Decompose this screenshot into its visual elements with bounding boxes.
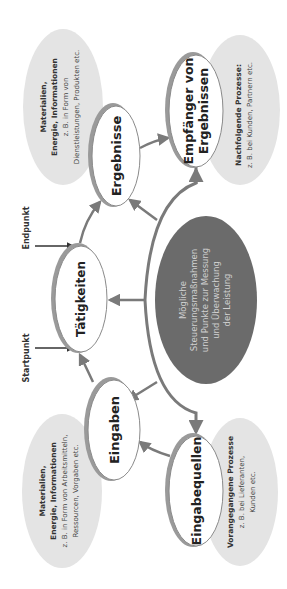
svg-text:Ergebnissen: Ergebnissen [196, 68, 211, 155]
svg-text:Steuerungsmaßnahmen: Steuerungsmaßnahmen [189, 249, 199, 351]
arrow-ergebnisse-to-empfaenger [140, 138, 168, 148]
label-eingaben: Eingaben [107, 396, 122, 464]
svg-text:Ressourcen, Vorgaben etc.: Ressourcen, Vorgaben etc. [72, 444, 80, 537]
label-ergebnisse: Ergebnisse [109, 115, 124, 196]
svg-text:der Leistung: der Leistung [222, 274, 232, 327]
svg-text:z. B. in Form von Arbeitsmitte: z. B. in Form von Arbeitsmitteln, [61, 435, 69, 548]
svg-text:und Überwachung: und Überwachung [211, 261, 221, 339]
svg-text:Kunden etc.: Kunden etc. [249, 471, 257, 513]
svg-text:Mögliche: Mögliche [178, 281, 188, 319]
label-eingabequellen: Eingabequellen [189, 437, 204, 546]
label-endpunkt: Endpunkt [22, 206, 31, 249]
process-diagram: Ergebnisse Tätigkeiten Eingaben Eingabeq… [0, 0, 287, 589]
svg-text:z. B. in Form von: z. B. in Form von [62, 78, 70, 137]
label-taetigkeiten: Tätigkeiten [74, 261, 88, 337]
svg-text:Vorangegangene Prozesse: Vorangegangene Prozesse [226, 436, 235, 548]
svg-text:Energie, Informationen: Energie, Informationen [50, 58, 59, 156]
arrow-center-to-ergebnisse [130, 200, 157, 220]
svg-text:z. B. bei Kunden, Partnern etc: z. B. bei Kunden, Partnern etc. [246, 62, 254, 168]
svg-text:Materialien,: Materialien, [39, 81, 48, 132]
svg-text:z. B. bei Lieferanten,: z. B. bei Lieferanten, [238, 456, 246, 529]
svg-text:Nachfolgende Prozesse:: Nachfolgende Prozesse: [234, 64, 243, 166]
svg-text:Energie, Informationen: Energie, Informationen [49, 442, 58, 540]
svg-text:Empfänger von: Empfänger von [181, 58, 196, 165]
label-empfaenger: Empfänger von Ergebnissen [181, 58, 211, 165]
svg-text:und Punkte zur Messung: und Punkte zur Messung [200, 248, 210, 352]
svg-text:Dienstleistungen, Produkten et: Dienstleistungen, Produkten etc. [73, 50, 81, 164]
arrow-eingabequellen-to-eingaben [140, 442, 170, 456]
arrow-taetigkeiten-to-ergebnisse [80, 202, 100, 243]
label-startpunkt: Startpunkt [22, 333, 31, 382]
arrow-eingaben-to-taetigkeiten [80, 355, 93, 382]
svg-text:Materialien,: Materialien, [38, 465, 47, 516]
